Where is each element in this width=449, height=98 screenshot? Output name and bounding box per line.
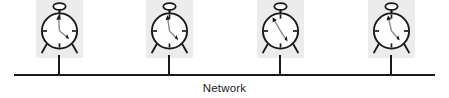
node-connector-stem (279, 55, 281, 74)
network-node (146, 0, 193, 58)
network-bus-line (14, 74, 435, 76)
alarm-clock-icon (257, 0, 304, 58)
network-clock-diagram: Network (0, 0, 449, 98)
node-connector-stem (390, 55, 392, 74)
network-node (36, 0, 83, 58)
node-connector-stem (168, 55, 170, 74)
network-node (368, 0, 415, 58)
node-connector-stem (58, 55, 60, 74)
alarm-clock-icon (368, 0, 415, 58)
alarm-clock-icon (146, 0, 193, 58)
alarm-clock-icon (36, 0, 83, 58)
network-label: Network (0, 82, 449, 94)
network-node (257, 0, 304, 58)
